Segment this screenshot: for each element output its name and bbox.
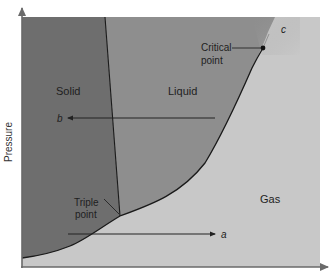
phase-diagram: Solid Liquid Gas Critical point Triple p… (0, 0, 329, 278)
y-axis-label: Pressure (3, 122, 14, 162)
liquid-label: Liquid (168, 85, 197, 97)
solid-label: Solid (56, 85, 80, 97)
triple-point-label-line2: point (75, 209, 97, 220)
critical-point-label-line2: point (201, 55, 223, 66)
critical-point-label-line1: Critical (201, 42, 232, 53)
path-a-label: a (221, 229, 227, 240)
path-b-label: b (57, 113, 63, 124)
triple-point-label-line1: Triple (74, 197, 99, 208)
critical-point-marker (261, 46, 266, 51)
path-c-label: c (281, 24, 286, 35)
gas-label: Gas (260, 193, 281, 205)
solid-region (22, 17, 120, 258)
